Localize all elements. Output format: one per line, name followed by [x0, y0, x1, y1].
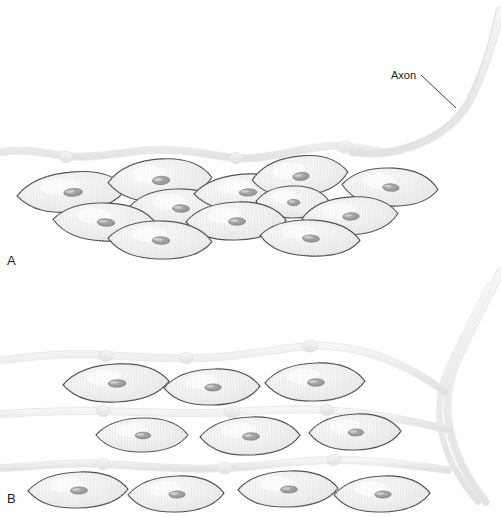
panel-label-a: A: [7, 253, 16, 268]
axon-varicosity: [320, 405, 334, 416]
cell-nucleus: [375, 491, 392, 498]
cell-nucleus: [287, 199, 300, 206]
figure-canvas: A B Axon: [0, 0, 501, 516]
cell-nucleus: [280, 486, 297, 493]
smooth-muscle-innervation-diagram: A B Axon: [0, 0, 501, 516]
cell-nucleus: [228, 218, 245, 226]
axon-varicosity: [217, 462, 233, 474]
cell-row-2: [96, 413, 401, 456]
cell-nucleus: [242, 433, 259, 441]
cell-nucleus: [307, 379, 324, 387]
cell-nucleus: [70, 487, 87, 494]
axon-label: Axon: [391, 69, 416, 81]
cell-row-1: [62, 362, 365, 406]
axon-varicosity: [327, 455, 341, 466]
axon-varicosity: [224, 406, 240, 418]
cell-nucleus: [169, 491, 186, 498]
cell-nucleus: [135, 432, 151, 439]
axon-varicosity: [302, 340, 318, 352]
axon-varicosity: [99, 351, 113, 362]
cell-nucleus: [348, 429, 364, 436]
nucleus-highlight: [137, 433, 144, 435]
axon-varicosity: [229, 153, 243, 164]
axon-varicosity: [179, 353, 193, 364]
axon-varicosity: [59, 152, 73, 163]
panel-label-b: B: [7, 491, 16, 506]
cell-nucleus: [205, 384, 222, 391]
axon-varicosity: [96, 406, 110, 417]
axon-varicosity: [96, 459, 110, 470]
